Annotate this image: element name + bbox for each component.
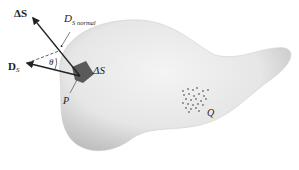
ds-normal-label-main: D <box>63 12 72 24</box>
charge-q-label: Q <box>207 107 215 118</box>
closed-surface <box>60 20 291 151</box>
theta-arc <box>55 58 57 69</box>
point-p-label: P <box>62 95 69 106</box>
gaussian-surface-diagram: ΔS D S normal D S θ ΔS P Q <box>0 0 299 170</box>
ds-normal-label-sub: S normal <box>72 19 96 26</box>
theta-label: θ <box>49 57 54 67</box>
ds-vector-label-main: D <box>8 60 16 72</box>
delta-s-patch-label: ΔS <box>92 64 105 76</box>
ds-vector-label-sub: S <box>16 66 20 74</box>
delta-s-vector-label: ΔS <box>14 7 27 19</box>
projection-dashed-line <box>27 51 59 63</box>
